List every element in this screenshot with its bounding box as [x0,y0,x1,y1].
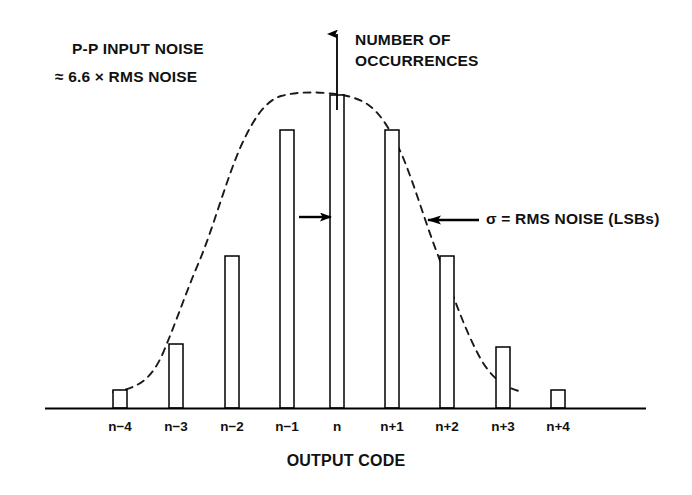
x-tick-label-3: n−1 [275,419,299,434]
bar-n-minus-1 [280,130,294,408]
bar-n [330,95,344,408]
bar-n-plus-4 [551,390,565,408]
x-axis-title: OUTPUT CODE [0,452,692,470]
bar-n-minus-2 [225,256,239,408]
x-tick-label-7: n+3 [491,419,515,434]
x-tick-label-8: n+4 [546,419,570,434]
pp-input-noise-label: P-P INPUT NOISE [72,40,204,58]
bar-n-plus-2 [440,256,454,408]
bar-n-plus-1 [385,130,399,408]
pp-input-noise-formula: ≈ 6.6 × RMS NOISE [55,68,197,86]
bar-n-minus-3 [169,344,183,408]
bar-n-plus-3 [496,347,510,408]
x-tick-label-1: n−3 [164,419,188,434]
x-tick-label-5: n+1 [380,419,404,434]
x-tick-label-6: n+2 [435,419,459,434]
noise-histogram-figure: P-P INPUT NOISE ≈ 6.6 × RMS NOISE NUMBER… [0,0,692,495]
bar-n-minus-4 [113,390,127,408]
y-axis-label-line2: OCCURRENCES [355,52,479,70]
x-tick-label-4: n [333,419,341,434]
x-tick-label-0: n−4 [108,419,132,434]
sigma-rms-noise-label: σ = RMS NOISE (LSBs) [486,210,660,228]
x-tick-label-2: n−2 [220,419,244,434]
histogram-bars [113,95,565,408]
y-axis-label-line1: NUMBER OF [355,31,451,49]
